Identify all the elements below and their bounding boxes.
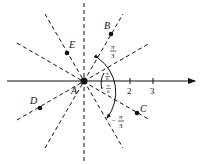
label-A: A [70,85,78,96]
angle-label-pi-over-6: π 6 [105,71,110,81]
svg-text:−: − [112,117,116,125]
svg-text:π: π [119,113,123,121]
label-D: D [29,95,38,106]
polar-diagram: 2 3 A B C D E π 3 π 6 − π 6 − π 3 [0,0,207,164]
angle-label-neg-pi-over-3: − π 3 [112,113,124,130]
tick-label-3: 3 [150,86,155,96]
point-D [38,106,43,111]
label-B: B [104,20,110,31]
label-C: C [140,103,147,114]
svg-text:π: π [107,83,110,88]
svg-text:3: 3 [119,122,123,130]
origin-point-A [81,78,88,85]
svg-text:3: 3 [111,52,115,60]
angle-label-pi-over-3: π 3 [110,43,116,60]
label-E: E [68,39,75,50]
point-C [135,111,140,116]
svg-text:−: − [101,85,104,90]
svg-text:6: 6 [107,89,110,94]
svg-text:π: π [111,43,115,51]
point-B [109,32,114,37]
tick-label-2: 2 [127,86,132,96]
point-E [65,51,70,56]
